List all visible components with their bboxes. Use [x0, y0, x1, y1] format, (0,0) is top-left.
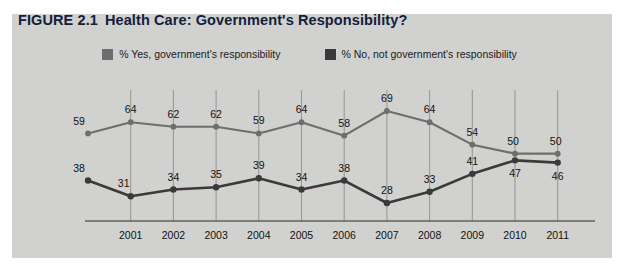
- data-point-label: 62: [210, 108, 222, 120]
- x-tick-label: 2005: [290, 229, 313, 241]
- data-point: [469, 171, 475, 177]
- data-point: [384, 108, 390, 114]
- data-point-label: 58: [338, 117, 350, 129]
- x-tick-label: 2010: [503, 229, 526, 241]
- data-point: [213, 124, 219, 130]
- data-point: [512, 151, 518, 157]
- data-point-label: 31: [118, 177, 130, 189]
- x-tick-label: 2006: [333, 229, 356, 241]
- data-point-label: 46: [552, 170, 564, 182]
- data-point-label: 47: [509, 167, 521, 179]
- data-point-label: 64: [424, 103, 436, 115]
- data-point: [341, 177, 347, 183]
- series-line-yes: [88, 111, 558, 154]
- data-point: [555, 159, 561, 165]
- data-point: [299, 119, 305, 125]
- data-point: [128, 193, 134, 199]
- x-tick-label: 2011: [546, 229, 569, 241]
- data-point-label: 64: [125, 103, 137, 115]
- data-point: [170, 186, 176, 192]
- data-point-label: 35: [210, 168, 222, 180]
- data-point-label: 34: [168, 171, 180, 183]
- x-tick-label: 2008: [418, 229, 441, 241]
- series-line-no: [88, 160, 558, 203]
- chart-gridlines: [131, 90, 558, 221]
- data-point-label: 54: [466, 126, 478, 138]
- data-point: [427, 119, 433, 125]
- data-point-label: 39: [253, 159, 265, 171]
- data-point: [128, 119, 134, 125]
- data-point: [213, 184, 219, 190]
- data-point-label: 50: [507, 135, 519, 147]
- data-point-label: 59: [73, 115, 85, 127]
- data-point-label: 28: [381, 184, 393, 196]
- data-point: [256, 131, 262, 137]
- data-point: [341, 133, 347, 139]
- x-tick-label: 2002: [162, 229, 185, 241]
- data-point: [171, 124, 177, 130]
- data-point-label: 38: [73, 162, 85, 174]
- data-point-label: 59: [253, 114, 265, 126]
- data-point: [85, 177, 91, 183]
- x-tick-label: 2007: [375, 229, 398, 241]
- data-point: [555, 151, 561, 157]
- data-point: [256, 175, 262, 181]
- data-point: [469, 142, 475, 148]
- data-point-label: 33: [424, 173, 436, 185]
- x-tick-label: 2003: [204, 229, 227, 241]
- data-point-label: 50: [550, 135, 562, 147]
- data-point: [384, 200, 390, 206]
- x-tick-label: 2009: [461, 229, 484, 241]
- chart-series-layer: [85, 108, 561, 206]
- data-point-label: 69: [381, 92, 393, 104]
- data-point-label: 41: [466, 155, 478, 167]
- data-point-label: 38: [338, 162, 350, 174]
- data-point: [512, 157, 518, 163]
- x-tick-label: 2001: [119, 229, 142, 241]
- data-point-label: 62: [168, 108, 180, 120]
- data-point-label: 34: [296, 171, 308, 183]
- data-point-label: 64: [296, 103, 308, 115]
- x-tick-label: 2004: [247, 229, 270, 241]
- data-point: [426, 189, 432, 195]
- line-chart-plot: [0, 0, 619, 264]
- data-point: [298, 186, 304, 192]
- data-point: [85, 131, 91, 137]
